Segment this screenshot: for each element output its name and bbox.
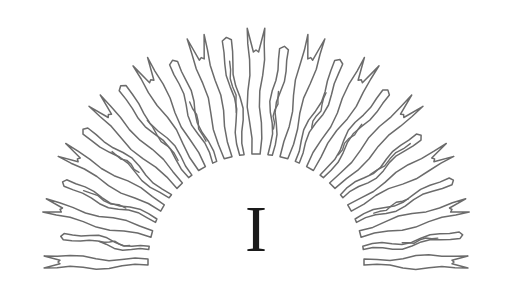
- ray-stroke: [280, 35, 325, 159]
- ray-stroke: [312, 93, 326, 128]
- ray-stroke: [295, 60, 342, 164]
- ray-stroke: [247, 28, 265, 154]
- ornament-page: I: [0, 0, 512, 284]
- chapter-numeral: I: [0, 196, 512, 262]
- ray-stroke: [187, 35, 232, 159]
- ray-stroke: [83, 128, 172, 198]
- ray-stroke: [190, 102, 206, 141]
- ray-stroke: [222, 37, 244, 155]
